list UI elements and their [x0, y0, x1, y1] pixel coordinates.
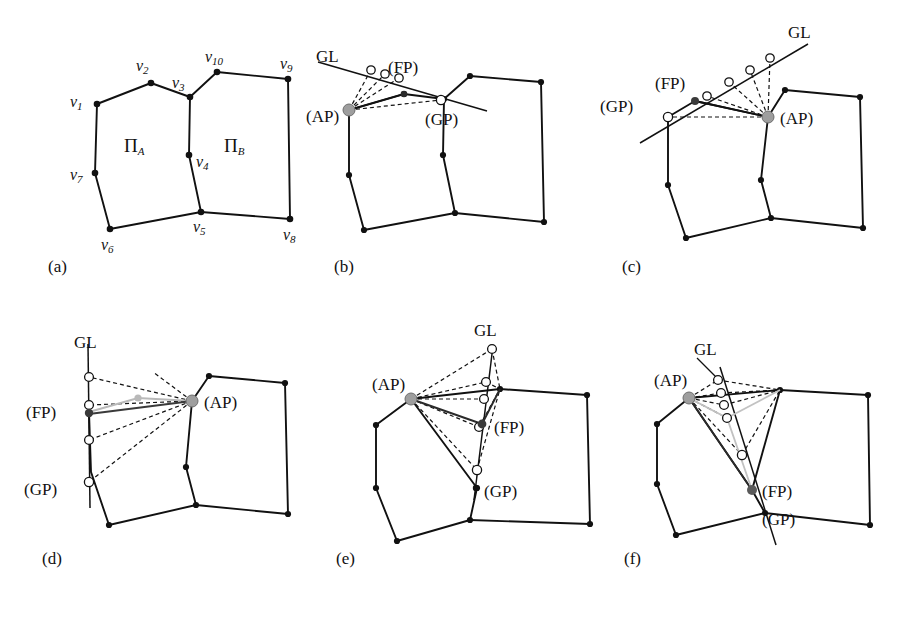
ap-point — [405, 393, 417, 405]
fp-point — [401, 91, 408, 98]
gp-label: (GP) — [425, 110, 458, 129]
sample-circle — [737, 450, 746, 459]
vertex-dot — [541, 219, 547, 225]
gp-circle — [84, 477, 93, 486]
gp-point — [473, 485, 479, 491]
sample-circle — [488, 345, 497, 354]
sample-circle — [746, 66, 754, 74]
panel-caption-d: (d) — [42, 549, 62, 568]
sample-circle — [717, 389, 726, 398]
panel-caption-f: (f) — [624, 549, 641, 568]
figure-root: v1 v2 v3 v4 v5 v6 v7 v8 v9 v10 ΠA ΠB (a) — [0, 0, 903, 621]
vertex-dot — [860, 225, 866, 231]
vertex-dot — [758, 177, 764, 183]
gp-circle — [663, 112, 672, 121]
vertex-dot — [285, 511, 291, 517]
gp-label: (GP) — [484, 482, 517, 501]
vertex-dot — [538, 79, 544, 85]
vertex-dot — [867, 522, 873, 528]
sample-circle — [85, 401, 94, 410]
vertex-dot — [467, 517, 473, 523]
gl-label: GL — [788, 23, 811, 42]
fp-label: (FP) — [655, 74, 685, 93]
sample-circle — [85, 436, 94, 445]
vertex-dot — [673, 532, 679, 538]
gp-label: (GP) — [600, 97, 633, 116]
vertex-dot-v6 — [107, 226, 114, 233]
panel-caption-c: (c) — [622, 257, 641, 276]
vertex-dot — [361, 227, 367, 233]
vertex-dot-v1 — [94, 101, 101, 108]
vertex-dot — [665, 182, 671, 188]
vertex-dot — [768, 215, 774, 221]
vertex-dot — [394, 538, 400, 544]
vertex-dot-v3 — [187, 94, 194, 101]
ap-point — [762, 111, 774, 123]
vertex-dot — [346, 172, 352, 178]
gp-circle — [472, 465, 481, 474]
fp-label: (FP) — [762, 482, 792, 501]
sample-circle — [723, 414, 732, 423]
sample-circle — [480, 395, 489, 404]
fp-label: (FP) — [494, 418, 524, 437]
vertex-dot — [193, 502, 199, 508]
vertex-dot — [587, 521, 593, 527]
sample-circle — [367, 66, 375, 74]
vertex-dot-v9 — [285, 76, 292, 83]
vertex-dot — [467, 73, 473, 79]
gp-label: (GP) — [762, 510, 795, 529]
ap-label: (AP) — [204, 393, 237, 412]
vertex-dot — [782, 87, 788, 93]
fp-point — [85, 409, 93, 417]
fp-point — [478, 420, 487, 429]
vertex-dot — [373, 422, 379, 428]
sample-circle — [720, 401, 729, 410]
vertex-dot — [452, 210, 458, 216]
vertex-dot — [183, 464, 189, 470]
ap-label: (AP) — [372, 375, 405, 394]
sample-circle — [85, 373, 94, 382]
ap-point — [186, 395, 198, 407]
ap-label: (AP) — [780, 109, 813, 128]
vertex-dot-v7 — [92, 170, 99, 177]
vertex-dot — [206, 373, 212, 379]
ap-point — [683, 392, 695, 404]
gl-label: GL — [474, 321, 497, 340]
panel-caption-e: (e) — [336, 549, 355, 568]
ap-point — [343, 104, 355, 116]
vertex-dot — [857, 94, 863, 100]
vertex-dot — [683, 235, 689, 241]
vertex-dot-v2 — [148, 80, 155, 87]
vertex-dot — [440, 152, 446, 158]
vertex-dot — [654, 421, 660, 427]
vertex-dot — [373, 485, 379, 491]
vertex-dot-v4 — [186, 152, 193, 159]
fp-label: (FP) — [26, 403, 56, 422]
gl-label: GL — [316, 47, 339, 66]
panel-caption-a: (a) — [48, 257, 67, 276]
gp-label: (GP) — [24, 480, 57, 499]
vertex-dot-v5 — [198, 209, 205, 216]
sample-circle — [725, 78, 733, 86]
vertex-dot — [106, 522, 112, 528]
vertex-dot-v8 — [287, 216, 294, 223]
sample-circle — [703, 92, 711, 100]
panel-caption-b: (b) — [334, 257, 354, 276]
gl-label: GL — [74, 333, 97, 352]
fp-label: (FP) — [388, 58, 418, 77]
gl-label: GL — [694, 340, 717, 359]
sample-circle — [766, 54, 774, 62]
figure-svg: v1 v2 v3 v4 v5 v6 v7 v8 v9 v10 ΠA ΠB (a) — [0, 0, 903, 621]
sample-circle — [482, 378, 491, 387]
vertex-dot — [584, 392, 590, 398]
fp-point — [747, 485, 757, 495]
ap-label: (AP) — [306, 107, 339, 126]
gp-circle — [436, 95, 445, 104]
vertex-dot-v10 — [214, 69, 221, 76]
gray-waypoint — [134, 394, 141, 401]
vertex-dot — [865, 392, 871, 398]
vertex-dot — [654, 481, 660, 487]
fp-point — [691, 97, 699, 105]
ap-label: (AP) — [654, 371, 687, 390]
sample-circle — [714, 376, 723, 385]
